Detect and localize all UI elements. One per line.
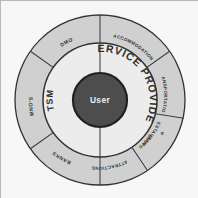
wheel-diagram: User SERVICE PROVIDER TSM DMO ACCOMMODAT… <box>1 1 198 198</box>
ecosystem-wheel-figure: User SERVICE PROVIDER TSM DMO ACCOMMODAT… <box>0 0 198 198</box>
scan-grain-overlay <box>1 1 198 198</box>
